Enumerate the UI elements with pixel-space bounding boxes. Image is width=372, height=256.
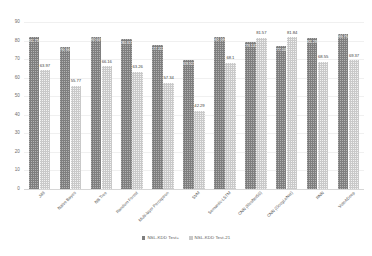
x-axis-tick-label: VoteADeep bbox=[337, 191, 355, 209]
bar: 83.75 bbox=[338, 34, 349, 189]
y-axis-tick-label: 30 bbox=[15, 131, 20, 136]
bar-fill bbox=[338, 34, 349, 189]
bar: 69.52 bbox=[183, 60, 194, 189]
bar-fill bbox=[71, 86, 82, 189]
legend-swatch-icon bbox=[142, 236, 146, 240]
bar-fill bbox=[102, 66, 113, 189]
bar-fill bbox=[91, 37, 102, 189]
legend-label: NSL-KDD Test-21 bbox=[195, 236, 231, 240]
bar-group: 77.0481.84 bbox=[271, 22, 302, 189]
bar-fill bbox=[256, 38, 267, 189]
bar-value-label: 76.56 bbox=[60, 48, 70, 52]
bar: 63.26 bbox=[132, 72, 143, 189]
bar: 80.67 bbox=[121, 39, 132, 189]
bar: 69.37 bbox=[349, 60, 360, 189]
x-axis-tick-label: Semantic-LSTM bbox=[208, 191, 232, 215]
legend-swatch-icon bbox=[189, 236, 193, 240]
bar: 77.04 bbox=[276, 46, 287, 189]
y-axis-tick-label: 40 bbox=[15, 112, 20, 117]
bar-group: 81.7563.97 bbox=[24, 22, 55, 189]
bar-fill bbox=[40, 70, 51, 189]
x-axis-tick-label: CNN (GoogLeNet) bbox=[266, 191, 293, 218]
legend-item[interactable]: NSL-KDD Test-21 bbox=[189, 236, 230, 240]
bar-value-label: 83.75 bbox=[338, 35, 348, 39]
y-axis-tick-label: 70 bbox=[15, 57, 20, 62]
bar-value-label: 69.52 bbox=[183, 62, 193, 66]
bar-group: 79.1481.57 bbox=[240, 22, 271, 189]
bar-groups: 81.7563.9776.5655.7782.0266.1680.6763.26… bbox=[24, 22, 364, 189]
bar-fill bbox=[214, 37, 225, 189]
bar-value-label: 63.97 bbox=[40, 64, 50, 68]
bar-group: 80.6763.26 bbox=[117, 22, 148, 189]
chart-legend: NSL-KDD Test+NSL-KDD Test-21 bbox=[0, 236, 372, 240]
y-axis-tick-label: 80 bbox=[15, 38, 20, 43]
x-axis-tick-label: Random Forest bbox=[116, 191, 140, 215]
bar-fill bbox=[307, 38, 318, 189]
bar: 81.84 bbox=[287, 37, 298, 189]
x-axis-tick-label: NB Tree bbox=[94, 191, 108, 205]
bar-value-label: 79.14 bbox=[245, 44, 255, 48]
y-axis-tick-label: 60 bbox=[15, 75, 20, 80]
bar-fill bbox=[132, 72, 143, 189]
bar-fill bbox=[287, 37, 298, 189]
legend-label: NSL-KDD Test+ bbox=[147, 236, 179, 240]
bar: 81.57 bbox=[256, 38, 267, 189]
bar-group: 83.7569.37 bbox=[333, 22, 364, 189]
bar-fill bbox=[349, 60, 360, 189]
x-axis-tick-label: Multi-layer Perceptron bbox=[138, 191, 170, 223]
bar: 68.55 bbox=[318, 62, 329, 189]
y-axis-tick-label: 0 bbox=[17, 187, 20, 192]
bar-group: 82.0266.16 bbox=[86, 22, 117, 189]
bar-fill bbox=[276, 46, 287, 189]
bar-fill bbox=[225, 63, 236, 189]
x-axis-tick-label: CNN (ResNet50) bbox=[237, 191, 263, 217]
bar-group: 77.4157.34 bbox=[148, 22, 179, 189]
bar-value-label: 81.75 bbox=[29, 39, 39, 43]
bar-fill bbox=[318, 62, 329, 189]
bar-value-label: 66.16 bbox=[102, 60, 112, 64]
x-axis-tick-label: RNN bbox=[315, 191, 325, 201]
x-axis-tick-label: SVM bbox=[192, 191, 202, 201]
bar: 42.29 bbox=[194, 111, 205, 189]
bar-group: 69.5242.29 bbox=[179, 22, 210, 189]
bar: 63.97 bbox=[40, 70, 51, 189]
bar: 81.75 bbox=[29, 37, 40, 189]
bar: 68.1 bbox=[225, 63, 236, 189]
bar-value-label: 81.57 bbox=[256, 31, 266, 35]
bar-value-label: 63.26 bbox=[133, 65, 143, 69]
bar-value-label: 68.1 bbox=[226, 56, 234, 60]
bar-chart: 0102030405060708090 81.7563.9776.5655.77… bbox=[0, 0, 372, 256]
x-axis-tick-label: Naïve Bayes bbox=[58, 191, 78, 211]
bar-value-label: 68.55 bbox=[318, 55, 328, 59]
bar: 55.77 bbox=[71, 86, 82, 189]
bar-fill bbox=[60, 47, 71, 189]
bar: 77.41 bbox=[152, 45, 163, 189]
bar-value-label: 57.34 bbox=[163, 76, 173, 80]
y-axis-tick-label: 10 bbox=[15, 168, 20, 173]
plot-area: 81.7563.9776.5655.7782.0266.1680.6763.26… bbox=[24, 22, 364, 189]
bar-group: 82.1868.1 bbox=[209, 22, 240, 189]
bar-fill bbox=[29, 37, 40, 189]
y-axis-tick-label: 90 bbox=[15, 20, 20, 25]
bar: 82.02 bbox=[91, 37, 102, 189]
bar-fill bbox=[152, 45, 163, 189]
bar: 81.29 bbox=[307, 38, 318, 189]
y-axis-tick-label: 50 bbox=[15, 94, 20, 99]
legend-item[interactable]: NSL-KDD Test+ bbox=[142, 236, 179, 240]
y-axis: 0102030405060708090 bbox=[0, 22, 24, 189]
bar: 66.16 bbox=[102, 66, 113, 189]
x-axis-tick-label: J48 bbox=[39, 191, 47, 199]
bar-value-label: 77.04 bbox=[276, 48, 286, 52]
bar-value-label: 80.67 bbox=[122, 41, 132, 45]
bar-value-label: 82.02 bbox=[91, 38, 101, 42]
bar-fill bbox=[163, 83, 174, 189]
bar-fill bbox=[194, 111, 205, 189]
bar-group: 81.2968.55 bbox=[302, 22, 333, 189]
bar-fill bbox=[245, 42, 256, 189]
bar-fill bbox=[121, 39, 132, 189]
bar: 57.34 bbox=[163, 83, 174, 189]
bar-group: 76.5655.77 bbox=[55, 22, 86, 189]
y-axis-tick-label: 20 bbox=[15, 150, 20, 155]
bar-fill bbox=[183, 60, 194, 189]
bar: 82.18 bbox=[214, 37, 225, 189]
